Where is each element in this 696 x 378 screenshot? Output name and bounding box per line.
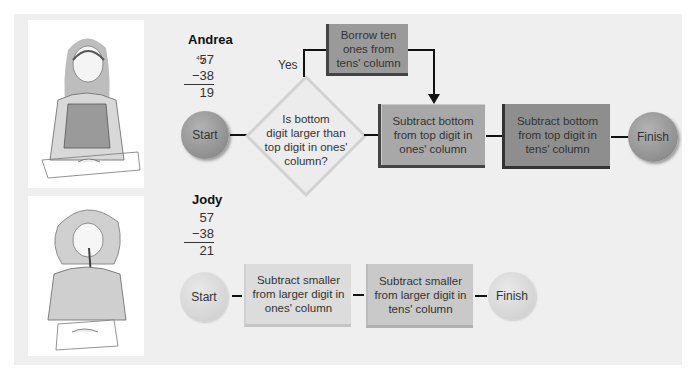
andrea-step-tens-box: Subtract bottom from top digit in tens' … xyxy=(502,104,610,169)
andrea-start-node: Start xyxy=(181,111,229,159)
andrea-decision-text: Is bottom digit larger than top digit in… xyxy=(262,112,350,168)
connector xyxy=(486,135,502,137)
jody-top-number: 57 xyxy=(184,210,214,226)
connector xyxy=(353,294,364,296)
arrow-down-icon xyxy=(428,94,440,104)
jody-bottom-number: −38 xyxy=(184,226,214,243)
connector xyxy=(408,49,435,51)
jody-step-tens-box: Subtract smaller from larger digit in te… xyxy=(366,264,473,328)
jody-illustration xyxy=(28,196,144,356)
andrea-finish-node: Finish xyxy=(628,112,678,162)
connector xyxy=(232,295,242,297)
andrea-calculation: 457 −38 19 xyxy=(184,52,214,101)
andrea-top-number: 457 xyxy=(184,52,214,68)
jody-start-label: Start xyxy=(191,290,216,304)
andrea-borrow-box: Borrow ten ones from tens' column xyxy=(326,24,408,76)
andrea-name: Andrea xyxy=(188,32,233,47)
andrea-finish-label: Finish xyxy=(637,130,669,144)
connector xyxy=(303,49,327,51)
girl-thinking-icon xyxy=(28,196,144,356)
jody-finish-label: Finish xyxy=(496,289,528,303)
girl-writing-icon xyxy=(28,20,144,188)
connector xyxy=(475,295,487,297)
jody-step-ones-box: Subtract smaller from larger digit in on… xyxy=(244,264,351,327)
jody-name: Jody xyxy=(192,192,222,207)
andrea-start-label: Start xyxy=(192,128,217,142)
connector xyxy=(611,136,629,138)
andrea-illustration xyxy=(28,20,144,188)
jody-start-node: Start xyxy=(180,272,228,322)
andrea-result: 19 xyxy=(184,85,214,101)
andrea-bottom-number: −38 xyxy=(184,68,214,85)
andrea-step-ones-box: Subtract bottom from top digit in ones' … xyxy=(378,104,485,168)
jody-calculation: 57 −38 21 xyxy=(184,210,214,259)
connector xyxy=(433,49,435,97)
jody-finish-node: Finish xyxy=(488,272,536,320)
connector xyxy=(364,134,379,136)
jody-result: 21 xyxy=(184,243,214,259)
connector xyxy=(303,49,305,77)
yes-label: Yes xyxy=(278,58,298,72)
